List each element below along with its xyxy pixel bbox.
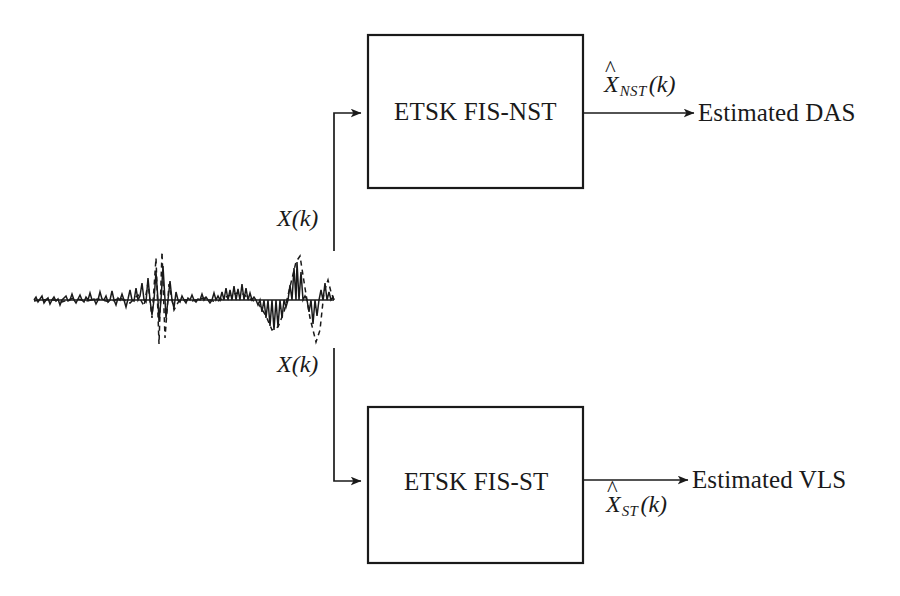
diagram-canvas: [0, 0, 900, 596]
output-signal-argument-nst: (k): [649, 71, 676, 97]
output-signal-subscript-st: ST: [621, 503, 641, 519]
input-waveform: [34, 252, 334, 344]
connector-input-to-st: [334, 348, 361, 481]
circumflex-accent-icon: ^: [605, 58, 616, 81]
output-signal-subscript-nst: NST: [619, 83, 649, 99]
output-signal-argument-st: (k): [640, 491, 667, 517]
destination-label-das: Estimated DAS: [698, 100, 856, 125]
circumflex-accent-icon: ^: [607, 478, 618, 501]
block-label-etsk-fis-st: ETSK FIS-ST: [404, 469, 549, 494]
output-signal-label-nst: ^XNST(k): [604, 72, 675, 99]
destination-label-vls: Estimated VLS: [692, 467, 846, 492]
block-label-etsk-fis-nst: ETSK FIS-NST: [394, 99, 557, 124]
output-signal-label-st: ^XST(k): [606, 492, 667, 519]
x-hat-glyph-st: ^X: [606, 492, 621, 516]
connector-input-to-nst: [334, 113, 361, 251]
block-diagram: ETSK FIS-NST ETSK FIS-ST X(k) X(k) ^XNST…: [0, 0, 900, 596]
branch-label-top: X(k): [277, 206, 318, 230]
x-hat-glyph-nst: ^X: [604, 72, 619, 96]
branch-label-bottom: X(k): [277, 352, 318, 376]
